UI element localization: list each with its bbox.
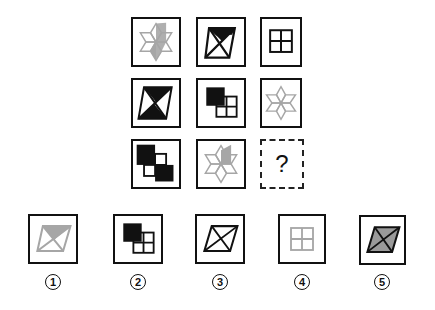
option-1-label: 1 bbox=[45, 274, 61, 290]
star-right-shaded-icon bbox=[198, 141, 244, 187]
grid-cell-1-2 bbox=[196, 17, 246, 67]
window-grid-gray-icon bbox=[280, 216, 324, 262]
grid-cell-1-1 bbox=[131, 17, 181, 67]
option-5[interactable] bbox=[359, 215, 406, 265]
option-1[interactable] bbox=[28, 214, 78, 264]
grid-cell-3-3-unknown: ? bbox=[260, 139, 304, 189]
squares-two-filled-icon bbox=[133, 141, 179, 187]
parallelogram-gray-top-filled-icon bbox=[30, 216, 76, 262]
option-3[interactable] bbox=[195, 214, 245, 264]
option-5-label: 5 bbox=[374, 274, 390, 290]
grid-cell-1-3 bbox=[260, 17, 302, 67]
option-4[interactable] bbox=[278, 214, 326, 264]
window-grid-icon bbox=[262, 19, 300, 65]
squares-one-filled-icon bbox=[115, 216, 161, 262]
option-4-label: 4 bbox=[294, 274, 310, 290]
grid-cell-3-1 bbox=[131, 139, 181, 189]
grid-cell-2-2 bbox=[196, 78, 246, 128]
question-mark: ? bbox=[262, 141, 302, 187]
option-2-label: 2 bbox=[130, 274, 146, 290]
parallelogram-gray-filled-icon bbox=[361, 217, 404, 263]
option-2[interactable] bbox=[113, 214, 163, 264]
grid-cell-3-2 bbox=[196, 139, 246, 189]
star-outline-icon bbox=[262, 80, 300, 126]
grid-cell-2-1 bbox=[131, 78, 181, 128]
star-half-shaded-icon bbox=[133, 19, 179, 65]
grid-cell-2-3 bbox=[260, 78, 302, 128]
parallelogram-outline-icon bbox=[197, 216, 243, 262]
squares-one-filled-icon bbox=[198, 80, 244, 126]
hourglass-top-filled-icon bbox=[198, 19, 244, 65]
hourglass-filled-icon bbox=[133, 80, 179, 126]
option-3-label: 3 bbox=[212, 274, 228, 290]
